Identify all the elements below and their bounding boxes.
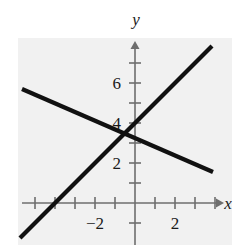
- x-axis-label: x: [223, 194, 232, 213]
- y-tick-label: 4: [113, 114, 122, 133]
- y-tick-labels: 246: [113, 74, 122, 173]
- y-tick-label: 2: [113, 154, 122, 173]
- y-tick-label: 6: [113, 74, 122, 93]
- coordinate-plane-svg: −22 246 x y: [0, 0, 241, 252]
- y-axis-label: y: [130, 10, 140, 29]
- graph-figure: −22 246 x y: [0, 0, 241, 252]
- plot-background: [18, 38, 232, 245]
- x-tick-label: 2: [171, 214, 180, 233]
- x-tick-label: −2: [86, 214, 104, 233]
